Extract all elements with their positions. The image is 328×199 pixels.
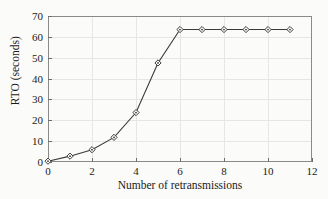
x-tick-label: 2: [89, 166, 95, 177]
x-tick-label: 4: [133, 166, 139, 177]
x-tick-mark: [312, 158, 313, 162]
x-tick-label: 0: [45, 166, 51, 177]
data-point-center: [47, 160, 49, 162]
x-tick-label: 8: [221, 166, 227, 177]
y-tick-label: 0: [38, 157, 44, 168]
y-tick-label: 10: [32, 136, 43, 147]
x-tick-label: 10: [263, 166, 274, 177]
y-tick-label: 40: [32, 73, 43, 84]
y-tick-label: 30: [32, 94, 43, 105]
data-point-center: [223, 29, 225, 31]
data-point-center: [69, 155, 71, 157]
series-line-rto: [48, 30, 290, 162]
data-series-layer: [48, 16, 312, 162]
y-tick-label: 50: [32, 52, 43, 63]
x-tick-label: 6: [177, 166, 183, 177]
data-point-center: [91, 149, 93, 151]
x-axis-title: Number of retransmissions: [48, 180, 312, 192]
y-tick-label: 20: [32, 115, 43, 126]
y-tick-label: 70: [32, 11, 43, 22]
data-point-center: [135, 112, 137, 114]
data-point-center: [245, 29, 247, 31]
plot-area: 010203040506070 024681012: [48, 16, 312, 162]
x-tick-label: 12: [307, 166, 318, 177]
y-tick-label: 60: [32, 31, 43, 42]
data-point-center: [267, 29, 269, 31]
data-point-center: [289, 29, 291, 31]
data-point-center: [113, 136, 115, 138]
y-axis-title: RTO (seconds): [10, 11, 22, 131]
data-point-center: [201, 29, 203, 31]
chart-figure: 010203040506070 024681012 Number of retr…: [0, 0, 328, 199]
data-point-center: [157, 62, 159, 64]
data-point-center: [179, 29, 181, 31]
